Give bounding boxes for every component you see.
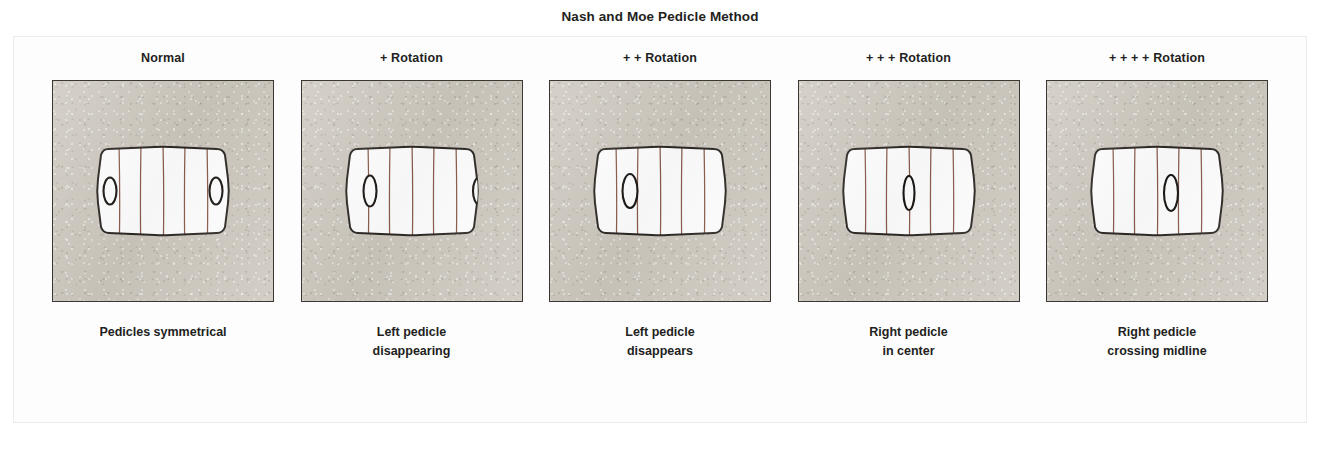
radiograph-image-rotation-3: [798, 80, 1020, 302]
panel-header-rotation-4: + + + + Rotation: [1109, 36, 1205, 80]
pedicle-left: [104, 178, 117, 205]
pedicle-method-panel-row: NormalPedicles symmetrical+ RotationLeft…: [13, 36, 1307, 423]
panel-header-rotation-1: + Rotation: [380, 36, 443, 80]
figure-title: Nash and Moe Pedicle Method: [0, 9, 1320, 24]
pedicle-center: [903, 176, 914, 210]
radiograph-image-rotation-2: [549, 80, 771, 302]
panel-caption-rotation-3: Right pedicle in center: [869, 323, 947, 362]
radiograph-image-rotation-1: [301, 80, 523, 302]
pedicle-panel-rotation-4: + + + + RotationRight pedicle crossing m…: [1046, 36, 1268, 423]
pedicle-left: [623, 174, 638, 208]
pedicle-right: [210, 178, 223, 205]
panel-caption-rotation-1: Left pedicle disappearing: [373, 323, 451, 362]
pedicle-panel-rotation-1: + RotationLeft pedicle disappearing: [301, 36, 523, 423]
panel-caption-rotation-2: Left pedicle disappears: [625, 323, 694, 362]
panel-caption-rotation-4: Right pedicle crossing midline: [1107, 323, 1206, 362]
radiograph-image-normal: [52, 80, 274, 302]
pedicle-panel-rotation-3: + + + RotationRight pedicle in center: [798, 36, 1020, 423]
vertebral-body-rotation-3: [841, 139, 977, 243]
vertebral-body-rotation-2: [592, 139, 728, 243]
panel-caption-normal: Pedicles symmetrical: [99, 323, 226, 342]
vertebral-body-normal: [95, 139, 231, 243]
pedicle-panel-rotation-2: + + RotationLeft pedicle disappears: [549, 36, 771, 423]
panel-header-rotation-3: + + + Rotation: [866, 36, 951, 80]
pedicle-right: [473, 178, 485, 205]
vertebral-body-rotation-4: [1089, 139, 1225, 243]
pedicle-left: [363, 176, 376, 207]
panel-header-normal: Normal: [141, 36, 185, 80]
pedicle-panel-normal: NormalPedicles symmetrical: [52, 36, 274, 423]
panel-header-rotation-2: + + Rotation: [623, 36, 697, 80]
pedicle-right: [1164, 175, 1178, 211]
radiograph-image-rotation-4: [1046, 80, 1268, 302]
vertebral-body-rotation-1: [344, 139, 480, 243]
